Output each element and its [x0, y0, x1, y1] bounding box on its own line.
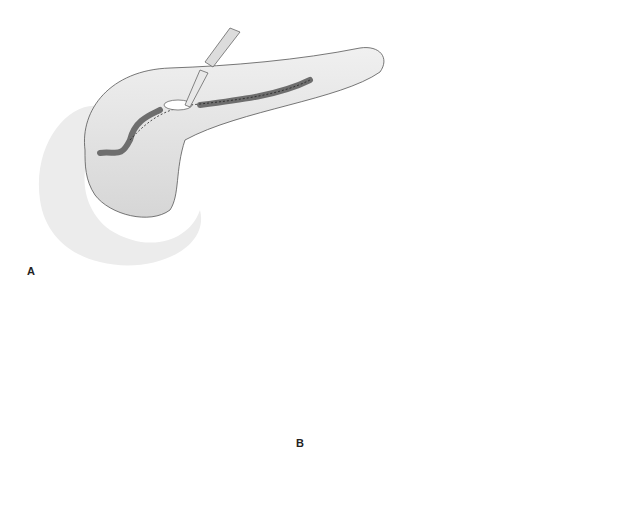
pancreas-a: [84, 48, 383, 218]
panel-label-b: B: [296, 437, 304, 449]
panel-a-drawing: [39, 28, 384, 265]
illustration: [0, 0, 634, 506]
panel-label-a: A: [27, 265, 35, 277]
